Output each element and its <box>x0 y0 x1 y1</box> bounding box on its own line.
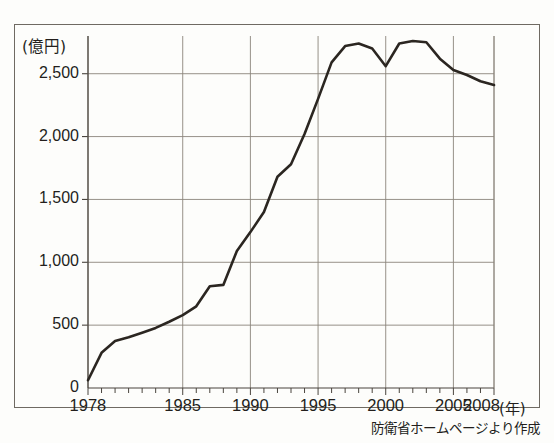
x-tick-label: 1990 <box>232 396 269 415</box>
figure-root: (億円) 05001,0001,5002,0002,500 1978198519… <box>0 0 554 443</box>
x-tick-label: 2008 <box>463 396 500 415</box>
y-tick-label: 500 <box>52 315 79 333</box>
x-axis-unit-label: (年) <box>499 397 526 418</box>
source-note: 防衛省ホームページより作成 <box>371 417 540 437</box>
x-tick-label: 2000 <box>367 396 404 415</box>
x-tick-label: 1978 <box>70 396 107 415</box>
data-line-series-0 <box>88 41 494 380</box>
y-tick-label: 0 <box>70 378 79 396</box>
line-chart-plot <box>0 0 554 443</box>
y-tick-label: 2,500 <box>39 64 79 82</box>
y-tick-label: 1,500 <box>39 189 79 207</box>
y-tick-label: 2,000 <box>39 127 79 145</box>
x-tick-label: 1995 <box>300 396 337 415</box>
y-tick-label: 1,000 <box>39 252 79 270</box>
x-tick-label: 1985 <box>164 396 201 415</box>
